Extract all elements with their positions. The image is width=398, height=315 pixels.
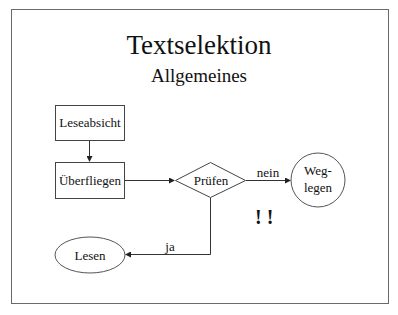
node-ueberfliegen-label: Überfliegen [55, 173, 125, 188]
edge-label-nein: nein [248, 165, 288, 180]
exclamation-annotation: ! ! [255, 206, 273, 228]
node-lesen-label: Lesen [55, 248, 125, 263]
node-weglegen-label-line1: Weg- [291, 163, 345, 178]
edge-label-ja: ja [150, 239, 190, 254]
node-leseabsicht-label: Leseabsicht [55, 115, 125, 130]
node-pruefen-label: Prüfen [176, 173, 246, 188]
node-weglegen-label-line2: legen [291, 180, 345, 195]
flowchart-canvas [0, 0, 398, 315]
